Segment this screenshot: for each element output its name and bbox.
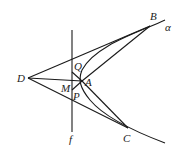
line-ba: [82, 26, 150, 81]
label-b: B: [150, 10, 157, 22]
line-ac: [82, 81, 128, 128]
geometry-diagram: D B α Q A M P C f: [0, 0, 182, 157]
label-d: D: [16, 72, 25, 84]
curve-alpha: [80, 20, 165, 143]
label-q: Q: [74, 60, 82, 72]
line-da: [28, 78, 82, 81]
label-a: A: [84, 76, 92, 88]
label-m: M: [60, 82, 71, 94]
label-p: P: [72, 90, 80, 102]
line-dc: [28, 78, 128, 128]
label-alpha: α: [165, 21, 171, 33]
label-f: f: [69, 133, 74, 145]
label-c: C: [123, 132, 131, 144]
